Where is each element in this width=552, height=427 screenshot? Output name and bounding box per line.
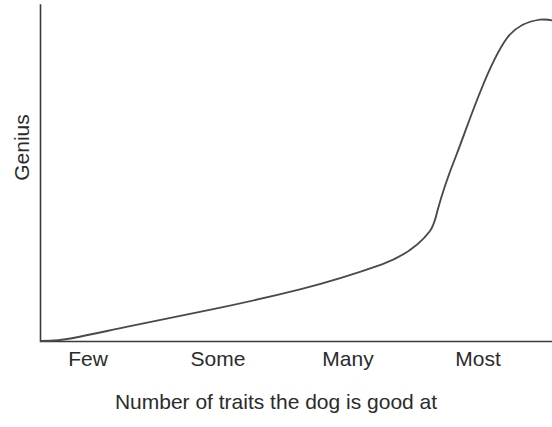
x-tick-label-most: Most — [455, 348, 501, 369]
y-axis-title: Genius — [11, 88, 32, 208]
x-axis-title: Number of traits the dog is good at — [0, 391, 552, 412]
x-tick-label-some: Some — [191, 348, 246, 369]
x-tick-label-many: Many — [322, 348, 373, 369]
x-tick-label-few: Few — [68, 348, 108, 369]
chart-figure: Few Some Many Most Number of traits the … — [0, 0, 552, 427]
data-curve-genius — [41, 19, 552, 341]
